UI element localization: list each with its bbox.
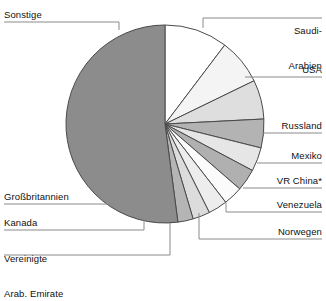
slice-label-mexiko: Mexiko — [202, 150, 322, 162]
slice-label-russland: Russland — [202, 120, 322, 132]
slice-label-vae-line2: Arab. Emirate — [4, 288, 144, 300]
slice-label-venezuela: Venezuela — [202, 199, 322, 211]
slice-label-usa: USA — [202, 64, 322, 76]
slice-label-sonstige: Sonstige — [4, 9, 134, 21]
slice-label-saudi-arabien: Saudi- Arabien — [202, 2, 322, 94]
slice-label-vae: Vereinigte Arab. Emirate — [4, 230, 144, 301]
slice-label-saudi-arabien-line1: Saudi- — [202, 25, 322, 37]
slice-label-norwegen: Norwegen — [202, 226, 322, 238]
slice-label-kanada: Kanada — [4, 217, 144, 229]
leader-line-sonstige — [4, 22, 119, 30]
slice-label-grossbritannien: Großbritannien — [4, 191, 144, 203]
leader-line-grossbritannien — [4, 204, 121, 208]
slice-label-vae-line1: Vereinigte — [4, 253, 144, 265]
slice-label-vr-china: VR China* — [202, 175, 322, 187]
